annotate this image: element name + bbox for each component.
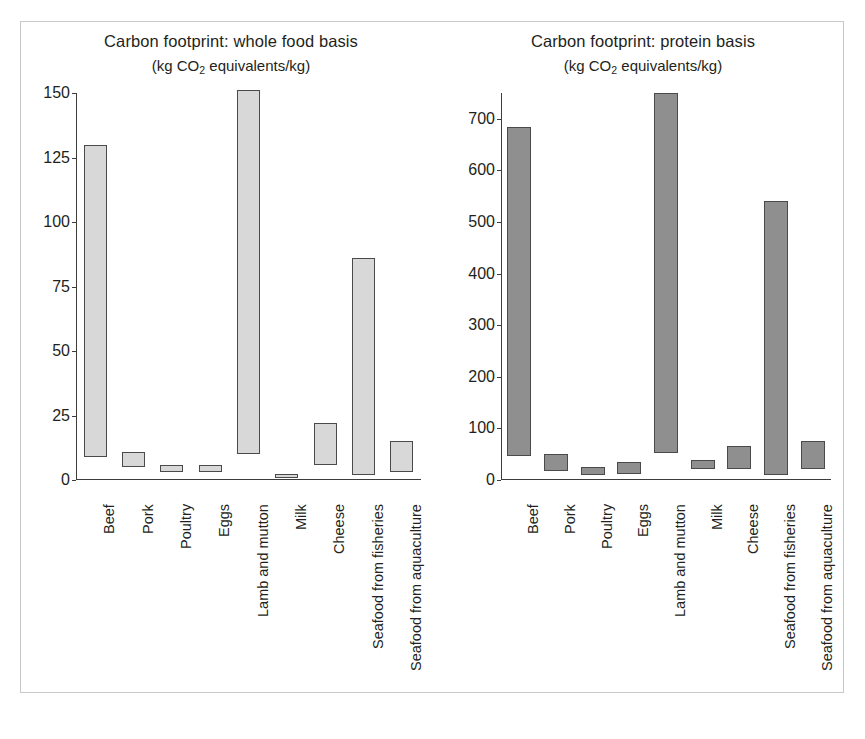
y-tick-label: 50 [52, 342, 70, 360]
y-tick-label: 0 [61, 471, 70, 489]
y-axis-line-left [76, 93, 77, 480]
x-tick-label: Cheese [331, 504, 347, 554]
x-tick-label: Beef [101, 504, 117, 534]
x-tick-label: Poultry [178, 504, 194, 549]
bar-poultry [581, 467, 605, 475]
x-tick-label: Lamb and mutton [672, 504, 688, 617]
subtitle-prefix: (kg CO [152, 57, 200, 74]
y-tick-mark [72, 158, 76, 159]
y-tick-mark [497, 170, 501, 171]
bar-poultry [160, 465, 183, 473]
y-tick-mark [72, 287, 76, 288]
x-tick-label: Poultry [599, 504, 615, 549]
bar-seafood-from-fisheries [352, 258, 375, 475]
chart-title-block-right: Carbon footprint: protein basis (kg CO2 … [441, 32, 845, 74]
chart-panel-protein-basis: Carbon footprint: protein basis (kg CO2 … [441, 22, 845, 694]
figure-frame: Carbon footprint: whole food basis (kg C… [20, 21, 844, 693]
y-tick-mark [497, 480, 501, 481]
bar-seafood-from-fisheries [764, 201, 788, 475]
x-tick-label: Lamb and mutton [255, 504, 271, 617]
y-tick-mark [72, 222, 76, 223]
y-tick-label: 25 [52, 407, 70, 425]
bar-pork [122, 452, 145, 467]
y-tick-mark [72, 480, 76, 481]
y-tick-mark [72, 416, 76, 417]
bar-milk [691, 460, 715, 468]
y-tick-mark [497, 428, 501, 429]
x-axis-line-left [76, 479, 421, 481]
chart-panel-whole-food-basis: Carbon footprint: whole food basis (kg C… [21, 22, 441, 694]
subtitle-prefix: (kg CO [564, 57, 612, 74]
x-tick-label: Milk [293, 504, 309, 530]
y-tick-mark [497, 222, 501, 223]
page-title: Carbon footprint: whole food basis [21, 32, 441, 51]
x-tick-label: Seafood from fisheries [782, 504, 798, 649]
y-tick-label: 600 [468, 161, 495, 179]
y-tick-label: 150 [43, 84, 70, 102]
chart-title-right: Carbon footprint: protein basis [441, 32, 845, 51]
bar-beef [507, 127, 531, 456]
y-tick-label: 75 [52, 278, 70, 296]
x-tick-label: Seafood from aquaculture [408, 504, 424, 671]
x-tick-label: Milk [709, 504, 725, 530]
y-tick-mark [72, 351, 76, 352]
y-tick-label: 0 [486, 471, 495, 489]
x-tick-label: Beef [525, 504, 541, 534]
x-tick-label: Pork [140, 504, 156, 534]
bar-pork [544, 454, 568, 471]
plot-area-left: 0255075100125150BeefPorkPoultryEggsLamb … [76, 93, 421, 480]
y-tick-label: 400 [468, 265, 495, 283]
plot-area-right: 0100200300400500600700BeefPorkPoultryEgg… [501, 93, 831, 480]
bar-seafood-from-aquaculture [801, 441, 825, 468]
y-tick-mark [497, 377, 501, 378]
chart-title-block-left: Carbon footprint: whole food basis (kg C… [21, 32, 441, 74]
y-tick-label: 300 [468, 316, 495, 334]
y-axis-line-right [501, 93, 502, 480]
y-tick-mark [497, 119, 501, 120]
bar-beef [84, 145, 107, 457]
subtitle-subscript: 2 [611, 64, 617, 76]
y-tick-label: 700 [468, 110, 495, 128]
subtitle-subscript: 2 [199, 64, 205, 76]
chart-subtitle-right: (kg CO2 equivalents/kg) [441, 57, 845, 74]
y-tick-mark [497, 274, 501, 275]
y-tick-label: 200 [468, 368, 495, 386]
y-tick-label: 100 [43, 213, 70, 231]
x-tick-label: Eggs [216, 504, 232, 537]
y-tick-label: 500 [468, 213, 495, 231]
x-tick-label: Seafood from fisheries [370, 504, 386, 649]
y-tick-mark [72, 93, 76, 94]
x-tick-label: Eggs [635, 504, 651, 537]
bar-cheese [314, 423, 337, 464]
x-axis-line-right [501, 479, 831, 481]
subtitle-suffix: equivalents/kg) [205, 57, 310, 74]
y-tick-label: 100 [468, 419, 495, 437]
chart-subtitle-left: (kg CO2 equivalents/kg) [21, 57, 441, 74]
x-tick-label: Pork [562, 504, 578, 534]
y-tick-label: 125 [43, 149, 70, 167]
figure-canvas: Carbon footprint: whole food basis (kg C… [0, 0, 865, 739]
bar-seafood-from-aquaculture [390, 441, 413, 472]
bar-milk [275, 474, 298, 478]
bar-eggs [617, 462, 641, 474]
bar-cheese [727, 446, 751, 468]
bar-eggs [199, 465, 222, 473]
subtitle-suffix: equivalents/kg) [617, 57, 722, 74]
x-tick-label: Seafood from aquaculture [819, 504, 835, 671]
y-tick-mark [497, 325, 501, 326]
bar-lamb-and-mutton [237, 90, 260, 454]
x-tick-label: Cheese [745, 504, 761, 554]
bar-lamb-and-mutton [654, 93, 678, 453]
